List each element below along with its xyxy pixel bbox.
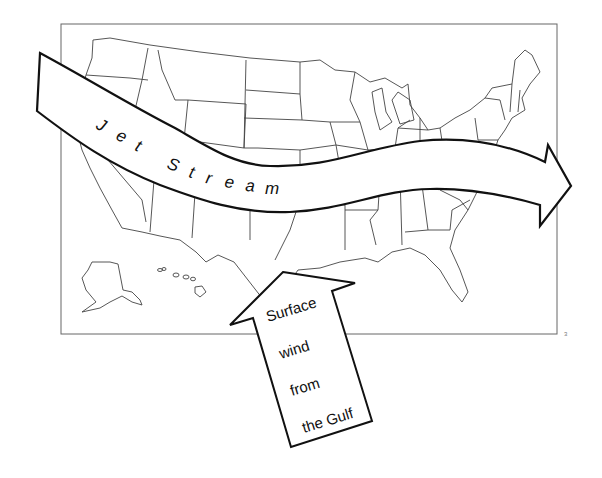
alaska xyxy=(82,262,142,312)
jet-letter: m xyxy=(265,179,279,198)
page-number: 3 xyxy=(564,331,567,337)
jet-stream-arrow: J e t S t r e a m xyxy=(37,53,571,226)
jet-letter: a xyxy=(245,176,256,196)
alaska-hawaii xyxy=(82,262,206,312)
diagram-canvas: J e t S t r e a m Surface wind from the … xyxy=(0,0,602,478)
surface-wind-arrow: Surface wind from the Gulf xyxy=(230,272,372,447)
